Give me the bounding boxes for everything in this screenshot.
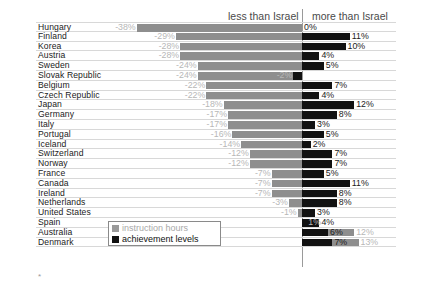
country-label: France [38, 168, 65, 178]
achievement-levels-bar [302, 121, 315, 129]
chart-rows: Hungary-38%0%Finland-29%11%Korea-28%10%A… [36, 22, 396, 247]
achievement-levels-bar [302, 199, 337, 207]
footnote-marker: * [38, 272, 41, 281]
achievement-levels-value-label: 11% [352, 178, 369, 189]
instruction-hours-bar [272, 170, 302, 178]
achievement-levels-bar [302, 82, 332, 90]
achievement-levels-bar [302, 101, 354, 109]
achievement-levels-bar [293, 72, 302, 80]
achievement-levels-bar [302, 150, 332, 158]
instruction-hours-bar [224, 101, 302, 109]
country-label: Australia [38, 227, 72, 237]
country-label: Norway [38, 158, 68, 168]
achievement-levels-bar [302, 92, 319, 100]
country-label: Iceland [38, 139, 66, 149]
instruction-hours-value-label: 1% [308, 217, 321, 228]
chart-header: less than Israel more than Israel [0, 9, 431, 23]
axis-label-less-than-israel: less than Israel [228, 9, 299, 23]
achievement-levels-bar [302, 52, 319, 60]
instruction-hours-bar [250, 150, 302, 158]
country-label: Italy [38, 119, 54, 129]
legend-label-instruction-hours: instruction hours [122, 223, 188, 234]
legend-item-instruction-hours: instruction hours [112, 223, 220, 234]
country-label: Finland [38, 31, 67, 41]
chart-row: Portugal-16%5% [36, 130, 396, 140]
achievement-levels-bar [302, 111, 337, 119]
achievement-levels-bar [302, 190, 337, 198]
instruction-hours-bar [228, 121, 302, 129]
instruction-hours-bar [180, 43, 302, 51]
instruction-hours-bar [272, 180, 302, 188]
instruction-hours-bar [272, 190, 302, 198]
axis-label-more-than-israel: more than Israel [312, 9, 388, 23]
achievement-levels-bar [302, 131, 324, 139]
achievement-levels-bar [302, 43, 346, 51]
achievement-levels-value-label: 7% [334, 237, 347, 248]
instruction-hours-value-label: -7% [255, 188, 271, 199]
country-label: Sweden [38, 60, 70, 70]
chart-legend: instruction hours achievement levels [108, 221, 221, 246]
country-label: Korea [38, 41, 61, 51]
achievement-levels-value-label: 10% [348, 41, 366, 52]
instruction-hours-bar [206, 82, 302, 90]
achievement-levels-bar [302, 239, 332, 247]
instruction-hours-bar [180, 52, 302, 60]
country-label: Czech Republic [38, 90, 100, 100]
achievement-levels-value-label: 12% [356, 99, 374, 110]
achievement-levels-value-label: 8% [339, 197, 352, 208]
instruction-hours-bar [241, 141, 302, 149]
instruction-hours-bar [198, 62, 302, 70]
achievement-levels-value-label: 4% [321, 90, 334, 101]
bar-chart: less than Israel more than Israel Hungar… [0, 0, 431, 285]
country-label: Slovak Republic [38, 70, 101, 80]
instruction-hours-value-label: -12% [228, 158, 249, 169]
achievement-levels-bar [302, 180, 350, 188]
legend-item-achievement-levels: achievement levels [112, 234, 220, 245]
country-label: Denmark [38, 237, 74, 247]
instruction-hours-value-label: -1% [281, 207, 297, 218]
achievement-levels-value-label: 8% [339, 109, 352, 120]
country-label: Canada [38, 178, 69, 188]
country-label: Japan [38, 99, 62, 109]
chart-row: Norway-12%7% [36, 159, 396, 169]
achievement-levels-bar [302, 141, 311, 149]
chart-row: Austria-28%4% [36, 51, 396, 61]
country-label: Austria [38, 50, 65, 60]
achievement-levels-bar [302, 62, 324, 70]
instruction-hours-bar [176, 33, 302, 41]
gray-square-icon [112, 225, 119, 232]
achievement-levels-value-label: 5% [326, 60, 339, 71]
country-label: Switzerland [38, 148, 84, 158]
instruction-hours-bar [250, 160, 302, 168]
achievement-levels-value-label: 7% [334, 80, 347, 91]
country-label: Portugal [38, 129, 71, 139]
country-label: Spain [38, 217, 60, 227]
achievement-levels-value-label: 2% [313, 139, 326, 150]
country-label: Germany [38, 109, 74, 119]
achievement-levels-bar [302, 170, 324, 178]
chart-row: Hungary-38%0% [36, 22, 396, 32]
instruction-hours-bar [289, 199, 302, 207]
achievement-levels-bar [302, 229, 328, 237]
chart-row: France-7%5% [36, 169, 396, 179]
country-label: Netherlands [38, 197, 85, 207]
achievement-levels-value-label: -2% [277, 70, 293, 81]
achievement-levels-value-label: 5% [326, 129, 339, 140]
country-label: Belgium [38, 80, 70, 90]
country-label: United States [38, 207, 91, 217]
instruction-hours-bar [232, 131, 302, 139]
chart-row: Finland-29%11% [36, 32, 396, 42]
achievement-levels-value-label: 5% [326, 168, 339, 179]
chart-row: United States-1%3% [36, 208, 396, 218]
legend-label-achievement-levels: achievement levels [122, 234, 199, 245]
country-label: Ireland [38, 188, 65, 198]
chart-row: Korea-28%10% [36, 42, 396, 52]
instruction-hours-bar [206, 92, 302, 100]
instruction-hours-bar [228, 111, 302, 119]
instruction-hours-value-label: 13% [361, 237, 379, 248]
achievement-levels-bar [302, 209, 315, 217]
achievement-levels-bar [302, 33, 350, 41]
achievement-levels-bar [302, 160, 332, 168]
black-square-icon [112, 236, 119, 243]
